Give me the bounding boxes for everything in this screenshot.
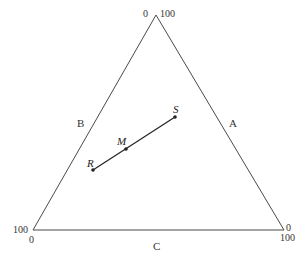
axis-label-c: C [153,240,160,252]
ternary-triangle [33,15,284,230]
tick-bottom-right-inner: 100 [280,232,295,243]
point-m [124,147,128,151]
axis-label-a: A [229,117,237,129]
tick-bottom-left-inner: 0 [29,234,34,245]
point-s [173,115,177,119]
ternary-diagram: 0 100 100 0 0 100 B A C R M S [0,0,303,258]
segment-rs [93,117,175,170]
point-label-m: M [116,135,127,147]
tick-top-left: 0 [143,8,148,19]
tick-top-right: 100 [160,8,175,19]
point-label-s: S [173,103,179,115]
tick-bottom-left-outer: 100 [13,224,28,235]
point-label-r: R [86,157,94,169]
axis-label-b: B [77,117,84,129]
